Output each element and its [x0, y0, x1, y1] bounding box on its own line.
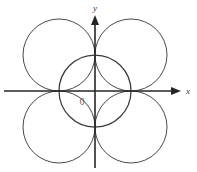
circles-diagram: x y 0: [0, 0, 197, 172]
top-left-circle: [23, 19, 95, 91]
figure-container: x y 0: [0, 0, 197, 172]
x-axis-arrow-icon: [171, 87, 181, 95]
x-axis-label: x: [185, 86, 190, 96]
y-axis-label: y: [92, 3, 97, 13]
top-right-circle: [95, 19, 167, 91]
y-axis-arrow-icon: [91, 15, 99, 25]
bottom-right-circle: [95, 91, 167, 163]
origin-label: 0: [80, 97, 85, 107]
